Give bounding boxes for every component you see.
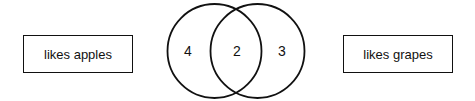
set-label-likes-grapes: likes grapes (343, 35, 453, 73)
region-grapes-only-count: 3 (278, 43, 286, 59)
circle-likes-grapes (211, 4, 305, 98)
circle-likes-apples (168, 4, 262, 98)
set-label-text: likes grapes (363, 47, 432, 62)
region-apples-only-count: 4 (184, 43, 192, 59)
region-intersection-count: 2 (233, 43, 241, 59)
